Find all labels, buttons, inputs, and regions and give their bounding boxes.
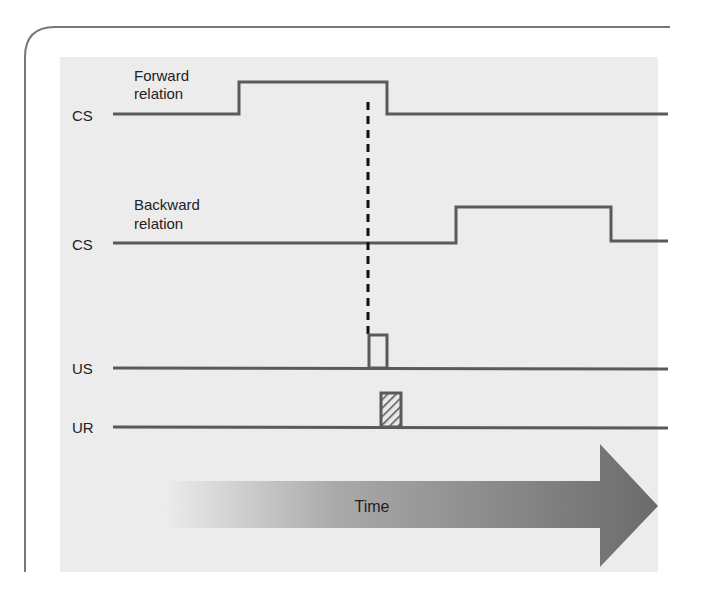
time-arrow-label: Time xyxy=(355,498,390,515)
backward-caption-line2: relation xyxy=(134,215,183,232)
us-pulse-open xyxy=(369,335,387,368)
conditioning-timing-diagram: CS Forward relation CS Backward relation… xyxy=(0,0,702,596)
cs-forward-label: CS xyxy=(72,107,93,124)
forward-caption-line1: Forward xyxy=(134,67,189,84)
forward-caption-line2: relation xyxy=(134,85,183,102)
us-trace xyxy=(113,368,668,369)
ur-pulse-hatched xyxy=(381,393,401,427)
us-label: US xyxy=(72,360,93,377)
cs-backward-label: CS xyxy=(72,236,93,253)
ur-label: UR xyxy=(72,419,94,436)
backward-caption-line1: Backward xyxy=(134,196,200,213)
